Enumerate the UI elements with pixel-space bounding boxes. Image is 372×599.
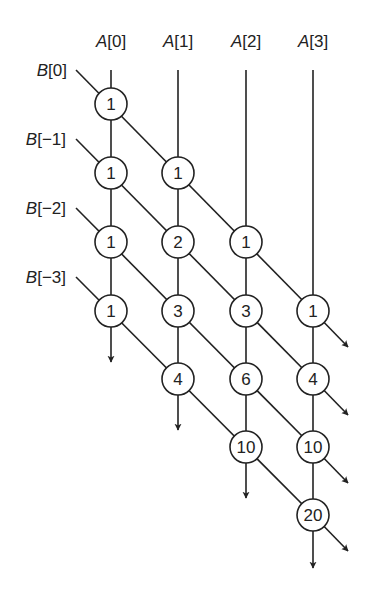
svg-text:1: 1 — [308, 302, 317, 321]
svg-text:1: 1 — [106, 302, 115, 321]
svg-text:10: 10 — [237, 438, 256, 457]
column-label-a2: A[2] — [230, 32, 261, 51]
node-c1-r2: 2 — [162, 226, 194, 258]
node-c2-r3: 3 — [230, 295, 262, 327]
svg-text:3: 3 — [241, 302, 250, 321]
row-label-b-2: B[−2] — [26, 199, 66, 218]
node-c3-r5: 10 — [297, 431, 329, 463]
vertical-lines — [111, 70, 313, 568]
column-labels: A[0] A[1] A[2] A[3] — [95, 32, 328, 51]
svg-text:1: 1 — [106, 164, 115, 183]
node-c0-r2: 1 — [95, 226, 127, 258]
svg-text:3: 3 — [173, 302, 182, 321]
row-labels: B[0] B[−1] B[−2] B[−3] — [26, 61, 67, 287]
svg-text:6: 6 — [241, 370, 250, 389]
node-c3-r4: 4 — [297, 363, 329, 395]
svg-text:4: 4 — [173, 370, 182, 389]
row-label-b-3: B[−3] — [26, 268, 66, 287]
svg-text:1: 1 — [106, 95, 115, 114]
svg-text:2: 2 — [173, 233, 182, 252]
svg-text:1: 1 — [241, 233, 250, 252]
row-label-b-1: B[−1] — [26, 130, 66, 149]
svg-text:4: 4 — [308, 370, 317, 389]
node-c0-r3: 1 — [95, 295, 127, 327]
svg-text:1: 1 — [106, 233, 115, 252]
node-c2-r5: 10 — [230, 431, 262, 463]
node-c3-r6: 20 — [297, 499, 329, 531]
svg-text:10: 10 — [304, 438, 323, 457]
node-c3-r3: 1 — [297, 295, 329, 327]
column-label-a3: A[3] — [297, 32, 328, 51]
row-label-b0: B[0] — [37, 61, 67, 80]
column-label-a0: A[0] — [95, 32, 126, 51]
node-c0-r1: 1 — [95, 157, 127, 189]
svg-text:1: 1 — [173, 164, 182, 183]
systolic-array-diagram: A[0] A[1] A[2] A[3] B[0] B[−1] B[−2] B[−… — [0, 0, 372, 599]
nodes: 1 1 1 1 2 1 1 3 3 1 4 6 4 10 10 20 — [95, 88, 329, 531]
node-c1-r4: 4 — [162, 363, 194, 395]
node-c2-r2: 1 — [230, 226, 262, 258]
node-c1-r1: 1 — [162, 157, 194, 189]
node-c2-r4: 6 — [230, 363, 262, 395]
svg-text:20: 20 — [304, 506, 323, 525]
column-label-a1: A[1] — [162, 32, 193, 51]
node-c0-r0: 1 — [95, 88, 127, 120]
node-c1-r3: 3 — [162, 295, 194, 327]
